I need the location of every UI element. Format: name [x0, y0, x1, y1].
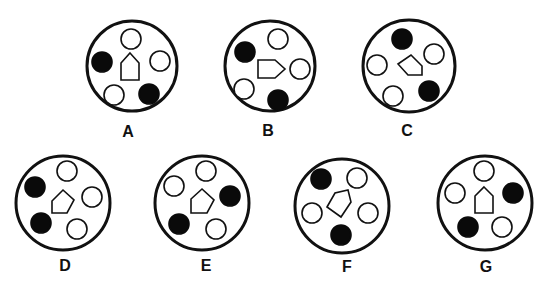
filled-dot — [419, 81, 439, 101]
option-c[interactable]: C — [363, 20, 455, 139]
filled-dot — [458, 217, 478, 237]
option-label: F — [342, 258, 352, 275]
open-dot — [57, 161, 77, 181]
open-dot — [290, 59, 310, 79]
option-label: G — [480, 258, 492, 275]
option-a[interactable]: A — [87, 21, 177, 140]
answer-options: ABCDEFG — [16, 20, 532, 275]
open-dot — [67, 219, 87, 239]
open-dot — [347, 168, 367, 188]
open-dot — [474, 161, 494, 181]
open-dot — [492, 217, 512, 237]
filled-dot — [268, 90, 288, 110]
option-label: A — [122, 123, 134, 140]
filled-dot — [169, 214, 189, 234]
open-dot — [367, 55, 387, 75]
open-dot — [234, 79, 254, 99]
puzzle-canvas: ABCDEFG — [0, 0, 545, 290]
open-dot — [82, 187, 102, 207]
option-e[interactable]: E — [155, 156, 249, 274]
filled-dot — [235, 42, 255, 62]
open-dot — [445, 183, 465, 203]
option-g[interactable]: G — [438, 156, 532, 275]
option-label: C — [401, 122, 413, 139]
filled-dot — [220, 186, 240, 206]
open-dot — [383, 86, 403, 106]
option-f[interactable]: F — [295, 159, 389, 275]
filled-dot — [25, 177, 45, 197]
option-d[interactable]: D — [16, 156, 110, 274]
option-b[interactable]: B — [225, 21, 315, 139]
open-dot — [104, 85, 124, 105]
filled-dot — [139, 84, 159, 104]
filled-dot — [92, 52, 112, 72]
open-dot — [268, 29, 288, 49]
filled-dot — [503, 183, 523, 203]
open-dot — [164, 176, 184, 196]
open-dot — [121, 29, 141, 49]
option-label: B — [262, 122, 274, 139]
filled-dot — [311, 169, 331, 189]
option-label: D — [59, 257, 71, 274]
filled-dot — [331, 225, 351, 245]
open-dot — [358, 203, 378, 223]
open-dot — [302, 203, 322, 223]
filled-dot — [31, 213, 51, 233]
open-dot — [424, 44, 444, 64]
open-dot — [206, 219, 226, 239]
open-dot — [196, 161, 216, 181]
open-dot — [150, 51, 170, 71]
filled-dot — [392, 29, 412, 49]
option-label: E — [201, 257, 212, 274]
